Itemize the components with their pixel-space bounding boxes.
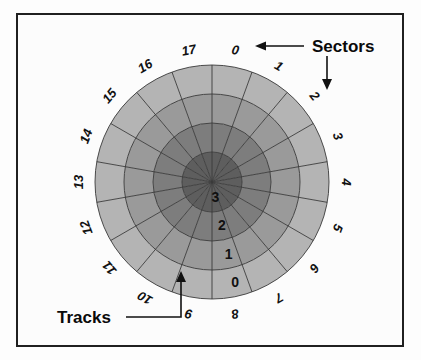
sector-number-label: 6 bbox=[306, 261, 323, 277]
sector-number-label: 8 bbox=[230, 306, 240, 322]
sectors-callout-label: Sectors bbox=[312, 37, 374, 56]
sector-number-label: 17 bbox=[180, 41, 198, 58]
tracks-callout-label: Tracks bbox=[57, 308, 111, 327]
track-number-label: 0 bbox=[231, 274, 239, 290]
sector-number-label: 5 bbox=[329, 222, 346, 235]
sectors-arrowhead-left bbox=[255, 42, 266, 51]
sector-number-label: 4 bbox=[339, 177, 354, 186]
sector-number-label: 14 bbox=[77, 126, 96, 145]
sector-number-label: 10 bbox=[134, 288, 155, 309]
sector-number-label: 16 bbox=[135, 55, 156, 76]
sector-number-label: 3 bbox=[330, 130, 347, 143]
sector-number-label: 0 bbox=[230, 42, 240, 58]
sector-number-label: 11 bbox=[99, 258, 119, 278]
sector-number-label: 12 bbox=[76, 218, 95, 237]
sectors-arrowhead-down bbox=[322, 79, 332, 90]
sector-number-label: 15 bbox=[99, 85, 120, 106]
track-number-label: 1 bbox=[225, 246, 233, 262]
disk-geometry-figure: 01234567891011121314151617 0123 Sectors … bbox=[0, 0, 421, 360]
track-number-label: 3 bbox=[211, 189, 219, 205]
track-number-label: 2 bbox=[218, 217, 226, 233]
sector-number-label: 7 bbox=[271, 290, 285, 307]
sector-cell bbox=[299, 162, 329, 203]
sector-number-label: 2 bbox=[306, 88, 323, 105]
sector-cell bbox=[95, 162, 125, 203]
sector-number-label: 13 bbox=[71, 174, 86, 189]
disk-platter-diagram: 01234567891011121314151617 0123 Sectors … bbox=[0, 0, 421, 360]
sector-number-label: 1 bbox=[272, 58, 286, 75]
sector-number-label: 9 bbox=[183, 306, 193, 322]
